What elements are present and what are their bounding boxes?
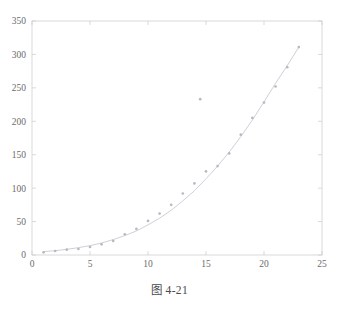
x-tick-label: 0 xyxy=(30,259,35,269)
data-point xyxy=(100,243,103,246)
data-point xyxy=(228,152,231,155)
data-point xyxy=(297,46,300,49)
data-point xyxy=(42,251,45,254)
y-tick-label: 50 xyxy=(17,217,27,227)
data-point xyxy=(170,204,173,207)
data-point xyxy=(77,248,80,251)
data-point xyxy=(216,165,219,168)
data-point xyxy=(239,133,242,136)
y-tick-label: 150 xyxy=(12,150,27,160)
data-point xyxy=(135,228,138,231)
y-tick-label: 100 xyxy=(12,184,27,194)
data-point xyxy=(123,233,126,236)
data-point xyxy=(193,182,196,185)
x-tick-label: 20 xyxy=(259,259,269,269)
data-point xyxy=(89,246,92,249)
data-point xyxy=(286,66,289,69)
x-tick-label: 5 xyxy=(88,259,93,269)
data-point xyxy=(251,117,254,120)
data-point xyxy=(263,101,266,104)
scatter-plot: 050100150200250300350 0510152025 xyxy=(0,0,339,311)
y-tick-label: 300 xyxy=(12,50,27,60)
x-tick-label: 15 xyxy=(201,259,211,269)
data-point xyxy=(54,250,57,253)
data-point xyxy=(205,170,208,173)
data-point xyxy=(274,85,277,88)
y-tick-label: 0 xyxy=(21,250,26,260)
x-tick-label: 25 xyxy=(317,259,327,269)
plot-background xyxy=(0,0,339,311)
y-tick-label: 350 xyxy=(12,16,27,26)
y-tick-label: 200 xyxy=(12,117,27,127)
data-point xyxy=(158,212,161,215)
data-point xyxy=(65,248,68,251)
data-point xyxy=(199,98,202,101)
data-point xyxy=(147,220,150,223)
x-tick-label: 10 xyxy=(143,259,153,269)
figure-container: 050100150200250300350 0510152025 图 4-21 xyxy=(0,0,339,311)
y-tick-label: 250 xyxy=(12,83,27,93)
figure-caption: 图 4-21 xyxy=(0,281,339,297)
data-point xyxy=(181,192,184,195)
data-point xyxy=(112,240,115,243)
